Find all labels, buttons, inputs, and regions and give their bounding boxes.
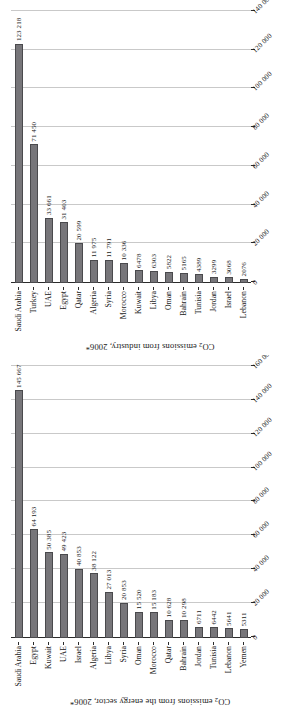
bar-row[interactable]: 15 183	[148, 366, 159, 638]
bar-row[interactable]: 5311	[238, 366, 249, 638]
bar[interactable]	[195, 274, 203, 283]
bar-row[interactable]: 31 403	[58, 11, 69, 283]
bar-row[interactable]: 6711	[193, 366, 204, 638]
bar[interactable]	[180, 621, 188, 639]
bar-row[interactable]: 64 193	[28, 366, 39, 638]
bar-row[interactable]: 6442	[208, 366, 219, 638]
bar[interactable]	[165, 272, 173, 283]
category-label: Bahrain	[178, 642, 189, 702]
bar-row[interactable]: 145 667	[13, 366, 24, 638]
category-label: Libya	[103, 642, 114, 702]
bar[interactable]	[240, 279, 248, 283]
bar-row[interactable]: 50 385	[43, 366, 54, 638]
category-tick	[93, 287, 94, 290]
chart-panel-industry: CO2 emissions from industry, 2006* Saudi…	[0, 0, 300, 354]
bar[interactable]	[75, 569, 83, 638]
bar[interactable]	[210, 627, 218, 638]
bar-row[interactable]: 11 791	[103, 11, 114, 283]
bar[interactable]	[90, 573, 98, 638]
category-tick	[63, 287, 64, 290]
bar-row[interactable]: 6478	[133, 11, 144, 283]
bar-row[interactable]: 15 520	[133, 366, 144, 638]
category-axis-industry: Saudi ArabiaTurkeyUAEEgyptQatarAlgeriaSy…	[11, 283, 251, 347]
bar[interactable]	[15, 390, 23, 638]
axis-tick-label: 100 000	[251, 70, 274, 93]
bar-row[interactable]: 5822	[163, 11, 174, 283]
bar-value-label: 31 403	[60, 200, 68, 220]
bar[interactable]	[30, 144, 38, 283]
bar[interactable]	[120, 263, 128, 283]
bar[interactable]	[120, 603, 128, 638]
bar[interactable]	[135, 612, 143, 638]
bar[interactable]	[165, 620, 173, 638]
bar[interactable]	[60, 222, 68, 283]
bar[interactable]	[150, 271, 158, 283]
bar[interactable]	[225, 628, 233, 638]
bar[interactable]	[45, 552, 53, 638]
bar[interactable]	[105, 260, 113, 283]
category-label: Oman	[163, 287, 174, 347]
bar-row[interactable]: 10 336	[118, 11, 129, 283]
bar-value-label: 4389	[195, 258, 203, 272]
axis-tick-label: 80 000	[251, 112, 271, 132]
category-label: UAE	[58, 642, 69, 702]
bar-row[interactable]: 123 218	[13, 11, 24, 283]
axis-tick-label: 100 000	[251, 450, 274, 473]
chart-title-rest: emissions from the energy sector, 2006*	[70, 697, 215, 707]
bar[interactable]	[90, 260, 98, 283]
category-tick	[183, 287, 184, 290]
axis-tick-label: 140 000	[251, 382, 274, 405]
bar-value-label: 6478	[135, 254, 143, 268]
bar-row[interactable]: 11 975	[88, 11, 99, 283]
bar-row[interactable]: 6303	[148, 11, 159, 283]
bar-row[interactable]: 10 628	[163, 366, 174, 638]
bar-row[interactable]: 49 423	[58, 366, 69, 638]
bar-row[interactable]: 5165	[178, 11, 189, 283]
bar-value-label: 145 667	[15, 364, 23, 387]
bar[interactable]	[45, 218, 53, 283]
category-label: Yemen	[238, 642, 249, 702]
bar-row[interactable]: 71 450	[28, 11, 39, 283]
bar[interactable]	[60, 554, 68, 638]
bar[interactable]	[180, 273, 188, 283]
bar-row[interactable]: 4389	[193, 11, 204, 283]
bar-row[interactable]: 20 599	[73, 11, 84, 283]
category-tick	[213, 642, 214, 645]
bar-value-label: 3068	[225, 260, 233, 274]
bar[interactable]	[210, 277, 218, 283]
category-tick	[138, 642, 139, 645]
category-label: Lebanon	[238, 287, 249, 347]
category-tick	[48, 642, 49, 645]
bar-row[interactable]: 27 013	[103, 366, 114, 638]
category-label: Turkey	[28, 287, 39, 347]
bar[interactable]	[75, 243, 83, 283]
category-tick	[63, 642, 64, 645]
bar-row[interactable]: 2076	[238, 11, 249, 283]
bar-row[interactable]: 20 853	[118, 366, 129, 638]
category-tick	[228, 642, 229, 645]
bar[interactable]	[225, 277, 233, 283]
bar-row[interactable]: 38 122	[88, 366, 99, 638]
category-tick	[198, 287, 199, 290]
bar[interactable]	[195, 627, 203, 638]
bar-row[interactable]: 33 661	[43, 11, 54, 283]
bar[interactable]	[105, 592, 113, 638]
bar-row[interactable]: 5641	[223, 366, 234, 638]
bar-row[interactable]: 40 853	[73, 366, 84, 638]
bar[interactable]	[30, 529, 38, 638]
category-label: Saudi Arabia	[13, 642, 24, 702]
bar-value-label: 10 628	[165, 598, 173, 618]
category-tick	[78, 642, 79, 645]
bar-row[interactable]: 3068	[223, 11, 234, 283]
bar[interactable]	[15, 44, 23, 283]
bar-row[interactable]: 10 298	[178, 366, 189, 638]
category-tick	[183, 642, 184, 645]
bar[interactable]	[135, 270, 143, 283]
bar-value-label: 6442	[210, 610, 218, 624]
bar-row[interactable]: 3299	[208, 11, 219, 283]
bar[interactable]	[150, 612, 158, 638]
chart-title-subscript: 2	[215, 697, 218, 704]
bar[interactable]	[240, 629, 248, 638]
bar-value-label: 27 013	[105, 570, 113, 590]
bar-value-label: 38 122	[90, 551, 98, 571]
